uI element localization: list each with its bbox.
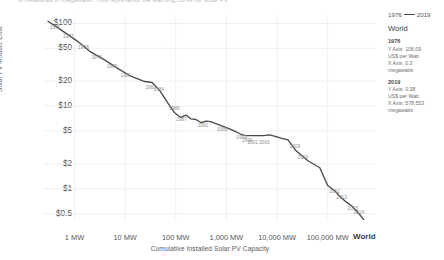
- legend-entry-y-unit: US$ per Watt: [388, 53, 442, 60]
- series-lines: [48, 21, 366, 220]
- legend-entry-year: 1976: [388, 38, 442, 46]
- legend-entry-y-value: Y Axis: 106.09: [388, 46, 442, 53]
- x-axis-tick-label: 10,000 MW: [258, 233, 296, 242]
- x-axis-title: Cumulative Installed Solar PV Capacity: [0, 245, 420, 252]
- legend-entry-year: 2019: [388, 79, 442, 87]
- legend-range-end: 2019: [417, 11, 431, 18]
- x-axis-tick-label: 1 MW: [65, 233, 84, 242]
- legend-entry-x-unit: megawatts: [388, 107, 442, 114]
- data-point-year-label: 2016: [354, 210, 364, 215]
- x-axis-tick-label: 1,000 MW: [210, 233, 244, 242]
- data-point-year-label: 1995: [217, 127, 227, 132]
- data-point-year-label: 1976: [50, 25, 60, 30]
- legend-entry: 2019Y Axis: 0.38US$ per WattX Axis: 578,…: [388, 79, 442, 115]
- data-point-year-label: 2009: [298, 154, 308, 159]
- legend-entry-x-value: X Axis: 0.3: [388, 60, 442, 67]
- series-line-world: [48, 21, 366, 220]
- legend-year-range: 1976 2019: [388, 11, 442, 18]
- data-point-year-label: 1984: [154, 86, 164, 91]
- x-axis-tick-label: 100,000 MW: [307, 233, 349, 242]
- legend-entry-y-value: Y Axis: 0.38: [388, 86, 442, 93]
- series-end-label-world: World: [353, 231, 376, 240]
- legend-line-swatch-icon: [404, 14, 415, 16]
- data-point-year-label: 1991: [198, 123, 208, 128]
- data-point-year-label: 2013: [337, 194, 347, 199]
- legend-entry: 1976Y Axis: 106.09US$ per WattX Axis: 0.…: [388, 38, 442, 74]
- data-point-year-label: 2012: [329, 189, 339, 194]
- legend-entry-x-unit: megawatts: [388, 67, 442, 74]
- data-point-year-label: 1979: [92, 55, 102, 60]
- chart-canvas: [44, 14, 376, 220]
- legend-range-start: 1976: [388, 11, 402, 18]
- data-point-year-label: 1981: [121, 73, 131, 78]
- figure-caption-strip: is measured in megawatts. This represent…: [0, 0, 444, 9]
- figure-caption-text: is measured in megawatts. This represent…: [18, 0, 229, 3]
- legend-entries: 1976Y Axis: 106.09US$ per WattX Axis: 0.…: [388, 38, 442, 114]
- y-axis-title: Solar PV Module Cost: [0, 0, 3, 92]
- legend-entry-x-value: X Axis: 578,553: [388, 100, 442, 107]
- data-point-year-label: 1978: [78, 44, 88, 49]
- data-point-year-label: 2001: [247, 139, 257, 144]
- x-axis-tick-label: 10 MW: [113, 233, 136, 242]
- legend-panel: 1976 2019 World 1976Y Axis: 106.09US$ pe…: [388, 11, 442, 114]
- data-point-year-label: 1986: [169, 106, 179, 111]
- grid-lines: [44, 14, 376, 220]
- data-point-year-label: 2008: [290, 143, 300, 148]
- legend-entity-name: World: [388, 24, 442, 33]
- chart-screenshot: is measured in megawatts. This represent…: [0, 0, 444, 260]
- x-axis-tick-label: 100 MW: [162, 233, 190, 242]
- data-point-year-label: 2003: [259, 139, 269, 144]
- legend-entry-y-unit: US$ per Watt: [388, 93, 442, 100]
- data-point-year-label: 1977: [63, 34, 73, 39]
- plot-area: 1976197719781979198019811983198419861987…: [44, 14, 376, 220]
- data-point-year-label: 1980: [107, 64, 117, 69]
- data-point-year-label: 1987: [176, 116, 186, 121]
